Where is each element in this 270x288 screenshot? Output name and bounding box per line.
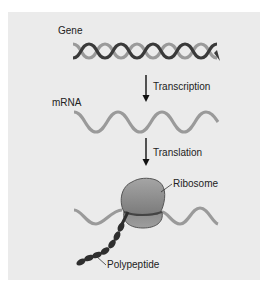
- translation-label: Translation: [153, 148, 202, 158]
- translation-arrow-icon: [143, 138, 150, 166]
- dna-double-helix-icon: [73, 44, 220, 61]
- mrna-label: mRNA: [52, 98, 81, 108]
- transcription-arrow-icon: [143, 75, 150, 102]
- mrna-strand-icon: [74, 112, 218, 132]
- gene-expression-diagram: [0, 0, 270, 288]
- transcription-label: Transcription: [153, 82, 210, 92]
- ribosome-label: Ribosome: [173, 179, 218, 189]
- gene-label: Gene: [58, 26, 82, 36]
- ribosome-icon: [121, 178, 165, 228]
- polypeptide-label: Polypeptide: [107, 260, 159, 270]
- polypeptide-leader-line: [96, 256, 106, 265]
